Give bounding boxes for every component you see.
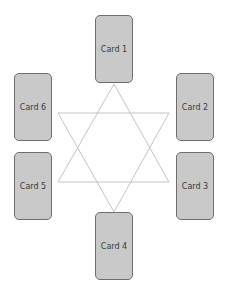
card-3-label: Card 3 [182, 182, 208, 191]
card-5[interactable]: Card 5 [14, 152, 52, 220]
card-6[interactable]: Card 6 [14, 73, 52, 141]
card-1[interactable]: Card 1 [95, 15, 133, 83]
card-5-label: Card 5 [20, 182, 46, 191]
card-3[interactable]: Card 3 [176, 152, 214, 220]
card-6-label: Card 6 [20, 103, 46, 112]
upward-triangle [58, 84, 169, 182]
card-2-label: Card 2 [182, 103, 208, 112]
card-2[interactable]: Card 2 [176, 73, 214, 141]
card-4[interactable]: Card 4 [95, 212, 133, 280]
downward-triangle [58, 113, 169, 212]
hexagram-card-spread: Card 1 Card 2 Card 3 Card 4 Card 5 Card … [0, 0, 233, 294]
card-4-label: Card 4 [101, 242, 127, 251]
card-1-label: Card 1 [101, 45, 127, 54]
